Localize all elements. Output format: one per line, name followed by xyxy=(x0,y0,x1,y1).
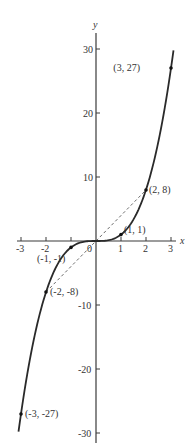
x-tick-label: 1 xyxy=(118,243,123,254)
point-label: (-1, -1) xyxy=(37,253,65,265)
point-2-8 xyxy=(144,188,148,192)
x-tick-label: 3 xyxy=(168,243,173,254)
y-tick-label: -20 xyxy=(78,364,91,375)
y-tick-label: -10 xyxy=(78,300,91,311)
x-tick-label: -3 xyxy=(16,243,24,254)
x-tick-label: 0 xyxy=(87,243,92,254)
point-1-1 xyxy=(119,233,123,237)
point-neg3-neg27 xyxy=(19,412,23,416)
x-tick-label: 2 xyxy=(143,243,148,254)
x-axis-label: x xyxy=(179,235,185,246)
point-label: (1, 1) xyxy=(124,224,146,236)
y-tick-label: 10 xyxy=(83,172,93,183)
point-label: (2, 8) xyxy=(149,184,171,196)
point-neg2-neg8 xyxy=(44,290,48,294)
y-tick-label: 30 xyxy=(83,44,93,55)
point-label: (-2, -8) xyxy=(50,286,78,298)
y-tick-label: 20 xyxy=(83,108,93,119)
y-tick-label: -30 xyxy=(78,428,91,439)
point-label: (3, 27) xyxy=(113,62,140,74)
point-neg1-neg1 xyxy=(69,246,73,250)
y-axis-label: y xyxy=(92,19,98,30)
point-label: (-3, -27) xyxy=(25,408,58,420)
point-3-27 xyxy=(169,66,173,70)
cubic-function-graph: y x -3 -2 0 1 2 3 30 20 10 -10 -20 -30 xyxy=(0,0,187,448)
